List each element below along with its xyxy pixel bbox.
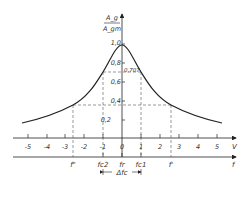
y-axis-label-denominator: A_gm	[102, 25, 121, 33]
v-ticks	[28, 134, 217, 138]
v-tick-label: -2	[81, 143, 87, 151]
y-tick-label: 0,2	[101, 116, 111, 124]
v-tick-label: -3	[62, 143, 68, 151]
v-tick-label: 5	[215, 143, 219, 151]
resonance-curve-diagram: 0,2 0,4 0,6 0,8 1,0 0,707 A_g A_gm -5 -4…	[0, 0, 247, 201]
y-tick-label: 0,6	[111, 78, 121, 86]
fr-label: fr	[119, 161, 125, 169]
v-tick-label: -4	[44, 143, 50, 151]
f-double-prime-label: f"	[70, 161, 76, 169]
v-tick-label: 3	[177, 143, 181, 151]
annotation-0707: 0,707	[124, 67, 140, 73]
y-axis-label-numerator: A_g	[105, 14, 118, 22]
fc1-label: fc1	[136, 161, 147, 169]
f-ticks	[103, 153, 141, 157]
v-tick-label: 4	[196, 143, 200, 151]
f-axis-label: f	[232, 161, 236, 169]
y-tick-label: 0,8	[111, 59, 121, 67]
v-tick-label: 2	[158, 143, 162, 151]
v-tick-label: -5	[25, 143, 31, 151]
bandwidth-label: Δfc	[115, 169, 127, 177]
y-tick-label: 1,0	[111, 39, 121, 47]
v-tick-label: 0	[120, 143, 124, 151]
v-tick-label: 1	[139, 143, 143, 151]
v-tick-label: -1	[100, 143, 106, 151]
v-axis-label: V	[232, 143, 238, 151]
y-ticks	[122, 44, 125, 120]
f-prime-label: f'	[169, 161, 173, 169]
y-tick-label: 0,4	[111, 97, 121, 105]
v-tick-labels: -5 -4 -3 -2 -1 0 1 2 3 4 5	[25, 143, 219, 151]
fc2-label: fc2	[98, 161, 109, 169]
